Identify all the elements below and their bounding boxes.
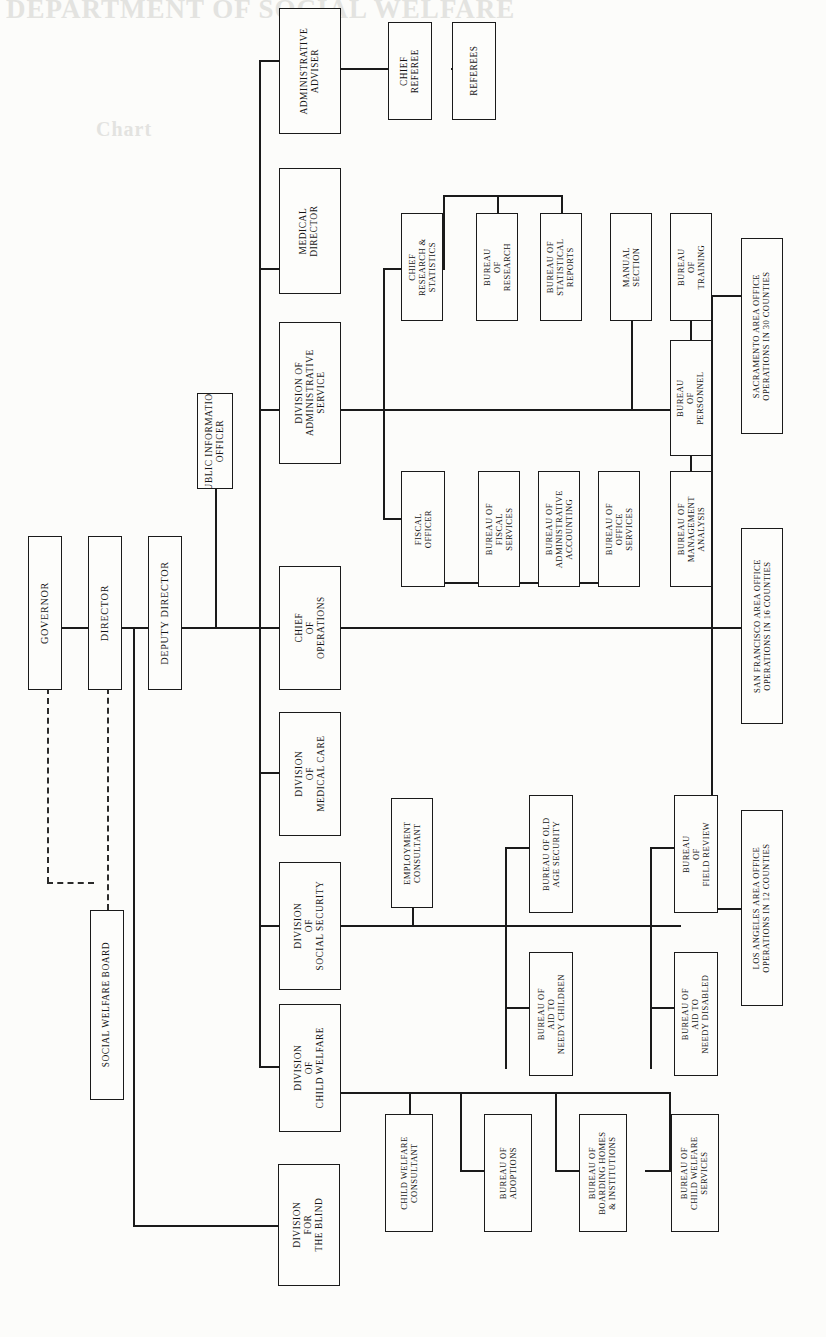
- node-referees[interactable]: REFEREES: [452, 22, 496, 120]
- node-manual-section-label: MANUAL SECTION: [621, 247, 641, 287]
- connector-adviser-chief-referee: [341, 68, 388, 70]
- connector-needy-disabled-stub: [650, 1007, 674, 1009]
- node-chief-of-operations[interactable]: CHIEF OF OPERATIONS: [279, 566, 341, 690]
- connector-director-blind-vertical: [133, 627, 135, 1227]
- node-bureau-statistical-reports[interactable]: BUREAU OF STATISTICAL REPORTS: [540, 213, 582, 321]
- stub-administrative-adviser: [259, 60, 279, 62]
- node-chief-referee[interactable]: CHIEF REFEREE: [388, 22, 432, 120]
- node-bureau-field-review[interactable]: BUREAU OF FIELD REVIEW: [674, 795, 718, 913]
- node-medical-director[interactable]: MEDICAL DIRECTOR: [279, 168, 341, 294]
- bleed-through-text-second: Chart: [96, 118, 152, 141]
- stub-chief-of-operations: [259, 627, 279, 629]
- node-referees-label: REFEREES: [468, 46, 479, 96]
- node-los-angeles-area-office[interactable]: LOS ANGELES AREA OFFICE OPERATIONS IN 12…: [741, 810, 783, 1006]
- node-director[interactable]: DIRECTOR: [88, 536, 122, 690]
- node-bureau-boarding-homes-label: BUREAU OF BOARDING HOMES & INSTITUTIONS: [588, 1131, 618, 1214]
- node-administrative-adviser[interactable]: ADMINISTRATIVE ADVISER: [279, 8, 341, 134]
- node-manual-section[interactable]: MANUAL SECTION: [610, 213, 652, 321]
- node-bureau-child-welfare-services[interactable]: BUREAU OF CHILD WELFARE SERVICES: [671, 1114, 719, 1232]
- node-administrative-adviser-label: ADMINISTRATIVE ADVISER: [299, 28, 321, 115]
- org-chart-page: DEPARTMENT OF SOCIAL WELFARE Chart: [0, 0, 826, 1337]
- node-bureau-old-age-security-label: BUREAU OF OLD AGE SECURITY: [541, 817, 561, 890]
- connector-bureau-statistical-drop: [561, 195, 563, 213]
- connector-research-stub: [383, 268, 401, 270]
- node-bureau-office-services[interactable]: BUREAU OF OFFICE SERVICES: [598, 471, 640, 587]
- node-bureau-administrative-accounting-label: BUREAU OF ADMINISTRATIVE ACCOUNTING: [544, 490, 574, 568]
- node-bureau-administrative-accounting[interactable]: BUREAU OF ADMINISTRATIVE ACCOUNTING: [538, 471, 580, 587]
- node-sacramento-area-office[interactable]: SACRAMENTO AREA OFFICE OPERATIONS IN 30 …: [741, 238, 783, 434]
- node-bureau-research-label: BUREAU OF RESEARCH: [482, 243, 512, 291]
- node-bureau-office-services-label: BUREAU OF OFFICE SERVICES: [604, 503, 634, 555]
- connector-field-review-needy-disabled-vertical: [650, 847, 652, 1069]
- bleed-through-text-top: DEPARTMENT OF SOCIAL WELFARE: [6, 0, 515, 25]
- node-public-information-officer[interactable]: PUBLIC INFORMATION OFFICER: [197, 393, 233, 489]
- connector-fiscal-officer-stub: [383, 518, 401, 520]
- node-division-for-the-blind[interactable]: DIVISION FOR THE BLIND: [278, 1164, 340, 1286]
- node-bureau-personnel[interactable]: BUREAU OF PERSONNEL: [670, 340, 712, 456]
- node-division-medical-care[interactable]: DIVISION OF MEDICAL CARE: [279, 712, 341, 836]
- connector-bureau-research-drop: [497, 195, 499, 213]
- node-bureau-aid-needy-disabled[interactable]: BUREAU OF AID TO NEEDY DISABLED: [674, 952, 718, 1076]
- connector-social-security-bus: [341, 925, 681, 927]
- node-social-welfare-board[interactable]: SOCIAL WELFARE BOARD: [90, 910, 124, 1100]
- node-bureau-management-analysis[interactable]: BUREAU OF MANAGEMENT ANALYSIS: [670, 471, 712, 587]
- connector-adoptions-stub: [460, 1170, 484, 1172]
- connector-director-blind-horizontal: [133, 1225, 278, 1227]
- node-chief-research-statistics-label: CHIEF RESEARCH & STATISTICS: [407, 238, 437, 296]
- node-employment-consultant[interactable]: EMPLOYMENT CONSULTANT: [391, 798, 433, 908]
- connector-san-francisco-office: [711, 627, 741, 629]
- node-fiscal-officer[interactable]: FISCAL OFFICER: [401, 471, 445, 587]
- node-division-social-security[interactable]: DIVISION OF SOCIAL SECURITY: [279, 862, 341, 990]
- node-sacramento-area-office-label: SACRAMENTO AREA OFFICE OPERATIONS IN 30 …: [752, 271, 772, 400]
- node-bureau-research[interactable]: BUREAU OF RESEARCH: [476, 213, 518, 321]
- dashed-governor-to-board-vertical: [47, 688, 49, 883]
- node-chief-research-statistics[interactable]: CHIEF RESEARCH & STATISTICS: [401, 213, 443, 321]
- node-governor[interactable]: GOVERNOR: [28, 536, 62, 690]
- connector-sacramento-office: [711, 295, 741, 297]
- node-bureau-personnel-label: BUREAU OF PERSONNEL: [676, 371, 706, 424]
- node-bureau-fiscal-services-label: BUREAU OF FISCAL SERVICES: [484, 503, 514, 555]
- node-medical-director-label: MEDICAL DIRECTOR: [299, 205, 321, 256]
- node-san-francisco-area-office[interactable]: SAN FRANCISCO AREA OFFICE OPERATIONS IN …: [741, 528, 783, 724]
- node-deputy-director[interactable]: DEPUTY DIRECTOR: [148, 536, 182, 690]
- node-bureau-statistical-reports-label: BUREAU OF STATISTICAL REPORTS: [546, 238, 576, 295]
- main-spine-upper: [259, 60, 261, 628]
- node-chief-of-operations-label: CHIEF OF OPERATIONS: [293, 597, 326, 660]
- node-employment-consultant-label: EMPLOYMENT CONSULTANT: [402, 821, 422, 885]
- node-bureau-boarding-homes[interactable]: BUREAU OF BOARDING HOMES & INSTITUTIONS: [579, 1114, 627, 1232]
- stub-medical-director: [259, 268, 279, 270]
- node-governor-label: GOVERNOR: [39, 582, 51, 644]
- node-division-child-welfare-label: DIVISION OF CHILD WELFARE: [293, 1027, 326, 1109]
- connector-boarding-homes-stub: [555, 1170, 579, 1172]
- node-child-welfare-consultant[interactable]: CHILD WELFARE CONSULTANT: [385, 1114, 433, 1232]
- node-division-administrative-service-label: DIVISION OF ADMINISTRATIVE SERVICE: [293, 350, 326, 437]
- connector-old-age-security-stub: [505, 847, 529, 849]
- connector-needy-children-stub: [505, 1007, 529, 1009]
- node-deputy-director-label: DEPUTY DIRECTOR: [159, 561, 171, 665]
- node-bureau-aid-needy-children[interactable]: BUREAU OF AID TO NEEDY CHILDREN: [529, 952, 573, 1076]
- node-division-child-welfare[interactable]: DIVISION OF CHILD WELFARE: [279, 1004, 341, 1132]
- connector-boarding-homes-drop: [555, 1092, 557, 1172]
- dashed-governor-to-board-horizontal: [47, 882, 94, 884]
- connector-adoptions-drop: [460, 1092, 462, 1172]
- connector-admin-to-research-vertical: [383, 268, 385, 411]
- node-bureau-adoptions[interactable]: BUREAU OF ADOPTIONS: [484, 1114, 532, 1232]
- connector-child-welfare-bus: [341, 1092, 671, 1094]
- connector-child-welfare-services-stub: [645, 1170, 671, 1172]
- connector-admin-to-fiscal-vertical: [383, 409, 385, 519]
- node-division-administrative-service[interactable]: DIVISION OF ADMINISTRATIVE SERVICE: [279, 322, 341, 464]
- node-public-information-officer-label: PUBLIC INFORMATION OFFICER: [204, 393, 226, 489]
- node-bureau-fiscal-services[interactable]: BUREAU OF FISCAL SERVICES: [478, 471, 520, 587]
- node-san-francisco-area-office-label: SAN FRANCISCO AREA OFFICE OPERATIONS IN …: [752, 559, 772, 693]
- node-bureau-old-age-security[interactable]: BUREAU OF OLD AGE SECURITY: [529, 795, 573, 913]
- stub-division-admin-service: [259, 409, 279, 411]
- node-child-welfare-consultant-label: CHILD WELFARE CONSULTANT: [399, 1136, 419, 1209]
- connector-old-age-needy-children-vertical: [505, 847, 507, 1069]
- main-spine-lower: [259, 627, 261, 1067]
- stub-division-social-security: [259, 925, 279, 927]
- stub-division-child-welfare: [259, 1066, 279, 1068]
- node-bureau-training[interactable]: BUREAU OF TRAINING: [670, 213, 712, 321]
- node-bureau-adoptions-label: BUREAU OF ADOPTIONS: [498, 1147, 518, 1199]
- connector-research-chief-top: [443, 195, 563, 197]
- node-chief-referee-label: CHIEF REFEREE: [399, 49, 421, 93]
